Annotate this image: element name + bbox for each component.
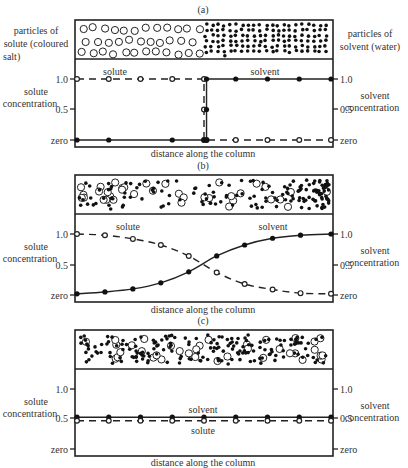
solvent-particle — [240, 179, 244, 183]
solvent-particles-label-line2: solvent (water) — [340, 41, 400, 53]
solvent-particle — [317, 50, 321, 54]
solvent-particle — [258, 340, 262, 344]
solvent-particle — [206, 333, 210, 337]
solvent-particle — [252, 194, 256, 198]
solvent-particle — [324, 38, 328, 42]
solvent-particle — [241, 44, 245, 48]
right-axis-label-line1: solvent — [361, 245, 390, 256]
solute-particle — [183, 25, 190, 32]
solvent-particle — [327, 188, 331, 192]
solute-particle — [175, 26, 182, 33]
solvent-particle — [107, 182, 111, 186]
solvent-particle — [264, 34, 268, 38]
solvent-particle — [106, 335, 110, 339]
solute-marker — [233, 418, 238, 423]
solvent-particle — [270, 45, 274, 49]
solute-marker — [233, 138, 238, 143]
solvent-particle — [212, 195, 216, 199]
solute-particle — [142, 24, 149, 31]
solute-particle — [228, 193, 235, 200]
solvent-particle — [278, 338, 282, 342]
solvent-particle — [226, 344, 230, 348]
solvent-particle — [297, 199, 301, 203]
solvent-particle — [135, 186, 139, 190]
solvent-particle — [205, 39, 209, 43]
solvent-particle — [288, 44, 292, 48]
solvent-particle — [221, 44, 225, 48]
solvent-particle — [294, 23, 298, 27]
solvent-particle — [152, 338, 156, 342]
solute-particle — [90, 50, 97, 57]
solute-particle — [178, 37, 185, 44]
solvent-particle — [281, 193, 285, 197]
solvent-particle — [305, 178, 309, 182]
solvent-particle — [107, 204, 111, 208]
solvent-marker — [233, 76, 238, 81]
solvent-particle — [205, 29, 209, 33]
solvent-particle — [175, 179, 179, 183]
solute-particle — [82, 38, 89, 45]
solvent-particle — [212, 190, 216, 194]
solvent-particle — [320, 196, 324, 200]
left-axis-label-line2: concentration — [3, 98, 57, 109]
solvent-particle — [84, 351, 88, 355]
solute-particle — [166, 37, 173, 44]
solvent-particle — [258, 357, 262, 361]
solvent-particle — [323, 44, 327, 48]
solvent-particle — [222, 349, 226, 353]
solvent-particle — [263, 45, 267, 49]
solvent-particle — [209, 341, 213, 345]
x-axis-label-a: distance along the column — [151, 148, 256, 159]
solvent-particle — [211, 24, 215, 28]
solvent-particle — [317, 34, 321, 38]
solvent-particle — [195, 337, 199, 341]
solute-marker — [186, 254, 191, 259]
solvent-particle — [296, 352, 300, 356]
left-tick-label: 1.0 — [56, 74, 69, 85]
solvent-particle — [253, 39, 257, 43]
solvent-particle — [81, 198, 85, 202]
solvent-particle — [264, 199, 268, 203]
solvent-particle — [199, 359, 203, 363]
solvent-particle — [264, 196, 268, 200]
solute-particle — [164, 24, 171, 31]
solvent-particle — [312, 24, 316, 28]
solvent-particle — [243, 349, 247, 353]
solute-particle — [80, 25, 87, 32]
solvent-particle — [260, 188, 264, 192]
solvent-particle — [247, 343, 251, 347]
solvent-particle — [287, 38, 291, 42]
solute-marker — [270, 287, 275, 292]
solvent-particle — [267, 184, 271, 188]
series-label-solute: solute — [103, 66, 127, 77]
left-axis-label-line2: concentration — [3, 408, 57, 419]
solvent-particle — [203, 35, 207, 39]
solvent-particle — [168, 194, 172, 198]
left-tick-label: zero — [51, 135, 68, 146]
solute-particle — [115, 38, 122, 45]
solute-particle — [99, 48, 106, 55]
solvent-particle — [160, 189, 164, 193]
solvent-particle — [251, 179, 255, 183]
solvent-particle — [196, 351, 200, 355]
solvent-particle — [283, 23, 287, 27]
solvent-particle — [230, 337, 234, 341]
solute-particle — [125, 36, 132, 43]
solute-particle — [147, 38, 154, 45]
solvent-particle — [300, 22, 304, 26]
solvent-particle — [226, 362, 230, 366]
solvent-particle — [282, 29, 286, 33]
solvent-particle — [82, 334, 86, 338]
solvent-particle — [133, 338, 137, 342]
solvent-particle — [124, 181, 128, 185]
solvent-particle — [318, 28, 322, 32]
solvent-particle — [111, 361, 115, 365]
solvent-particle — [217, 359, 221, 363]
right-tick-label: 1.0 — [340, 384, 353, 395]
solute-particle — [189, 39, 196, 46]
solvent-marker — [204, 76, 209, 81]
solvent-marker — [328, 76, 333, 81]
solvent-particle — [209, 45, 213, 49]
solvent-particle — [222, 34, 226, 38]
panel-a-label: (a) — [197, 4, 208, 16]
